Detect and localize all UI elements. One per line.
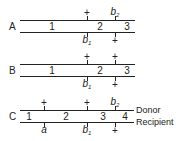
mutation-b1-marker: b1 — [83, 125, 92, 138]
mutation-b1-marker: b1 — [83, 79, 92, 92]
recipient-label: Recipient — [136, 118, 174, 127]
recipient-strand-line — [20, 76, 135, 77]
mutation-b2-marker: b2 — [111, 7, 120, 20]
donor-strand-line — [20, 64, 135, 65]
mutation-b1-marker: b1 — [83, 35, 92, 48]
donor-strand-line — [20, 20, 135, 21]
segment-3-label: 3 — [124, 66, 130, 76]
wildtype-plus-marker: + — [84, 98, 90, 108]
wildtype-plus-marker: + — [41, 98, 47, 108]
segment-2-label: 2 — [97, 66, 103, 76]
mutation-a-marker: a — [41, 125, 47, 135]
diagram-label-b: B — [9, 66, 16, 76]
wildtype-plus-marker: + — [112, 52, 118, 62]
donor-label: Donor — [136, 106, 161, 115]
segment-2-label: 2 — [63, 112, 69, 122]
wildtype-plus-marker: + — [112, 126, 118, 136]
diagram-label-c: C — [9, 112, 16, 122]
wildtype-plus-marker: + — [84, 8, 90, 18]
segment-3-label: 3 — [124, 22, 130, 32]
segment-1-label: 1 — [26, 112, 32, 122]
wildtype-plus-marker: + — [84, 52, 90, 62]
wildtype-plus-marker: + — [112, 36, 118, 46]
recipient-strand-line — [20, 122, 134, 123]
segment-3-label: 3 — [100, 112, 106, 122]
segment-2-label: 2 — [97, 22, 103, 32]
wildtype-plus-marker: + — [112, 80, 118, 90]
mutation-b2-marker: b2 — [111, 97, 120, 110]
segment-4-label: 4 — [122, 112, 128, 122]
donor-strand-line — [20, 110, 134, 111]
segment-1-label: 1 — [49, 66, 55, 76]
segment-1-label: 1 — [49, 22, 55, 32]
diagram-label-a: A — [9, 22, 16, 32]
recipient-strand-line — [20, 32, 135, 33]
